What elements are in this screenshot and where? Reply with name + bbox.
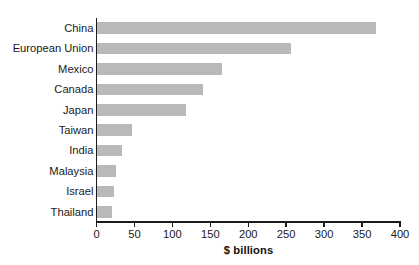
category-label: Canada — [0, 79, 94, 99]
bar — [97, 186, 114, 198]
x-tick — [323, 222, 324, 227]
bar — [97, 63, 223, 75]
x-tick-label: 200 — [228, 228, 268, 240]
category-label: China — [0, 18, 94, 38]
bar-row — [97, 181, 401, 201]
x-tick-label: 350 — [342, 228, 382, 240]
bar-row — [97, 100, 401, 120]
bar — [97, 22, 376, 34]
category-label: Malaysia — [0, 161, 94, 181]
bar-row — [97, 59, 401, 79]
x-tick-label: 100 — [152, 228, 192, 240]
x-axis-title: $ billions — [97, 244, 401, 256]
x-tick-label: 400 — [380, 228, 419, 240]
category-label: European Union — [0, 38, 94, 58]
category-label: Thailand — [0, 202, 94, 222]
x-tick-label: 300 — [304, 228, 344, 240]
category-label: India — [0, 140, 94, 160]
bar-row — [97, 202, 401, 222]
bar-row — [97, 140, 401, 160]
bar-row — [97, 18, 401, 38]
x-tick — [361, 222, 362, 227]
bar-row — [97, 161, 401, 181]
bar — [97, 206, 112, 218]
bar-row — [97, 79, 401, 99]
x-tick — [96, 222, 97, 227]
bar — [97, 104, 187, 116]
x-tick-label: 50 — [114, 228, 154, 240]
x-tick — [248, 222, 249, 227]
bar-chart: ChinaEuropean UnionMexicoCanadaJapanTaiw… — [0, 0, 419, 265]
category-label: Mexico — [0, 59, 94, 79]
x-tick — [172, 222, 173, 227]
bar-row — [97, 38, 401, 58]
bar — [97, 165, 117, 177]
bar — [97, 84, 203, 96]
x-tick — [399, 222, 400, 227]
x-tick-label: 250 — [266, 228, 306, 240]
bar-row — [97, 120, 401, 140]
category-label: Japan — [0, 100, 94, 120]
bar — [97, 124, 133, 136]
bar — [97, 43, 291, 55]
category-label: Taiwan — [0, 120, 94, 140]
x-tick — [134, 222, 135, 227]
x-tick-label: 150 — [190, 228, 230, 240]
x-tick — [285, 222, 286, 227]
bar — [97, 145, 123, 157]
x-tick — [210, 222, 211, 227]
category-label: Israel — [0, 181, 94, 201]
x-tick-label: 0 — [77, 228, 117, 240]
